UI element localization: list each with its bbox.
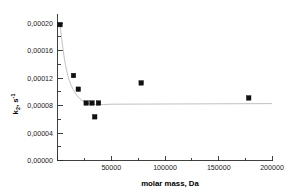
data-point xyxy=(71,73,76,78)
data-point xyxy=(84,101,89,106)
y-tick-label-3: 0,00012 xyxy=(27,75,53,83)
y-tick-label-1: 0,00004 xyxy=(27,130,53,138)
y-axis-title-superscript: -1 xyxy=(10,94,16,99)
data-point xyxy=(58,22,63,27)
data-point xyxy=(76,87,81,92)
y-tick-label-0: 0,00000 xyxy=(27,157,53,165)
data-point xyxy=(96,101,101,106)
y-tick-label-2: 0,00008 xyxy=(27,102,53,110)
y-tick-label-4: 0,00016 xyxy=(27,47,53,55)
x-tick-label-50000: 50000 xyxy=(101,164,121,172)
x-axis-title: molar mass, Da xyxy=(141,179,199,188)
x-tick-label-200000: 200000 xyxy=(260,164,284,172)
data-point xyxy=(92,115,97,120)
chart-figure: 0,00000 0,00004 0,00008 0,00012 0,00016 … xyxy=(0,0,293,194)
x-tick-label-150000: 150000 xyxy=(207,164,231,172)
data-point xyxy=(90,101,95,106)
data-point xyxy=(139,81,144,86)
data-point xyxy=(246,96,251,101)
y-tick-label-5: 0,00020 xyxy=(27,20,53,28)
x-tick-label-100000: 100000 xyxy=(153,164,177,172)
scatter-plot: 0,00000 0,00004 0,00008 0,00012 0,00016 … xyxy=(0,0,293,194)
